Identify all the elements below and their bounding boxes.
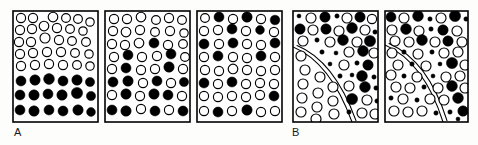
open-circle xyxy=(122,14,131,23)
filled-circle xyxy=(410,62,414,66)
open-circle xyxy=(242,65,251,74)
open-circle xyxy=(360,25,370,35)
open-circle xyxy=(73,61,82,70)
filled-circle xyxy=(71,87,82,98)
open-circle xyxy=(312,102,322,112)
open-circle xyxy=(386,70,396,80)
filled-circle xyxy=(373,30,377,34)
open-circle xyxy=(399,13,409,23)
open-circle xyxy=(300,65,310,75)
filled-circle xyxy=(458,106,468,116)
filled-circle xyxy=(417,35,428,46)
open-circle xyxy=(180,29,188,37)
open-circle xyxy=(14,37,23,46)
filled-circle xyxy=(270,38,280,48)
open-circle xyxy=(135,25,144,34)
open-circle xyxy=(151,28,160,37)
open-circle xyxy=(228,52,237,61)
filled-circle xyxy=(242,105,252,115)
open-circle xyxy=(296,51,306,61)
open-circle xyxy=(107,39,116,48)
filled-circle xyxy=(453,93,464,104)
open-circle xyxy=(403,107,413,117)
filled-circle xyxy=(363,60,373,70)
open-circle xyxy=(242,53,251,62)
open-circle xyxy=(453,47,463,57)
open-circle xyxy=(28,48,37,57)
filled-circle xyxy=(334,51,338,55)
open-circle xyxy=(430,37,440,47)
filled-circle xyxy=(347,23,358,34)
open-circle xyxy=(82,38,91,47)
panel-label-b: B xyxy=(292,127,300,138)
open-circle xyxy=(389,106,399,116)
filled-circle xyxy=(43,89,53,99)
filled-circle xyxy=(456,117,460,121)
open-circle xyxy=(241,92,250,101)
filled-circle xyxy=(123,50,133,60)
open-circle xyxy=(134,38,144,48)
open-circle xyxy=(228,14,237,23)
filled-circle xyxy=(213,51,223,61)
open-circle xyxy=(412,72,422,82)
open-circle xyxy=(455,71,465,81)
open-circle xyxy=(425,94,435,104)
open-circle xyxy=(357,108,367,118)
filled-circle xyxy=(213,107,223,117)
filled-circle xyxy=(57,90,67,100)
open-circle xyxy=(241,26,250,35)
open-circle xyxy=(308,25,318,35)
open-circle xyxy=(298,36,308,46)
open-circle xyxy=(328,96,338,106)
open-circle xyxy=(214,66,223,75)
open-circle xyxy=(228,64,238,74)
filled-circle xyxy=(163,90,173,100)
open-circle xyxy=(71,49,80,58)
filled-circle xyxy=(443,36,453,46)
filled-circle xyxy=(438,25,448,35)
open-circle xyxy=(328,82,338,92)
open-circle xyxy=(270,65,279,74)
filled-circle xyxy=(44,105,54,115)
open-circle xyxy=(15,49,24,58)
open-circle xyxy=(329,109,339,119)
filled-circle xyxy=(199,39,209,49)
open-circle xyxy=(391,82,401,92)
open-circle xyxy=(163,40,172,49)
filled-circle xyxy=(360,82,371,93)
filled-circle xyxy=(422,85,426,89)
open-circle xyxy=(28,13,37,22)
open-circle xyxy=(390,36,400,46)
open-circle xyxy=(405,83,415,93)
open-circle xyxy=(58,60,67,69)
open-circle xyxy=(213,25,222,34)
filled-circle xyxy=(242,12,252,22)
filled-circle xyxy=(227,24,237,34)
filled-circle xyxy=(256,26,265,35)
filled-circle xyxy=(297,14,301,18)
filled-circle xyxy=(72,75,82,85)
open-circle xyxy=(86,18,94,26)
filled-circle xyxy=(149,89,159,99)
panel-a-box-1 xyxy=(105,11,190,122)
open-circle xyxy=(107,90,116,99)
filled-circle xyxy=(30,75,40,85)
open-circle xyxy=(227,91,236,100)
filled-circle xyxy=(29,106,39,116)
filled-circle xyxy=(107,105,117,115)
open-circle xyxy=(256,40,265,49)
open-circle xyxy=(306,13,316,23)
open-circle xyxy=(199,26,208,35)
filled-circle xyxy=(44,74,55,85)
open-circle xyxy=(108,26,117,35)
open-circle xyxy=(39,21,49,31)
open-circle xyxy=(86,62,94,70)
open-circle xyxy=(54,35,63,44)
filled-circle xyxy=(58,76,68,86)
open-circle xyxy=(404,37,414,47)
filled-circle xyxy=(85,77,94,86)
open-circle xyxy=(120,40,129,49)
open-circle xyxy=(241,79,250,88)
filled-circle xyxy=(315,38,319,42)
open-circle xyxy=(269,27,278,36)
